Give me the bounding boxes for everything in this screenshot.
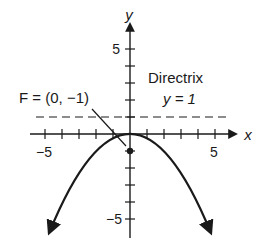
directrix-title: Directrix: [148, 69, 203, 86]
x-axis-label: x: [243, 126, 252, 143]
x-tick-label-5: 5: [210, 144, 218, 160]
focus-point: [127, 148, 133, 154]
focus-label: F = (0, −1): [19, 89, 89, 106]
y-axis-label: y: [124, 6, 134, 23]
y-tick-label-neg5: −5: [106, 211, 122, 227]
parabola-diagram: y x 5 −5 −5 5 F = (0, −1) Directrix y = …: [0, 0, 264, 243]
x-tick-label-neg5: −5: [36, 144, 52, 160]
directrix-equation: y = 1: [162, 90, 196, 107]
y-tick-label-5: 5: [112, 41, 120, 57]
